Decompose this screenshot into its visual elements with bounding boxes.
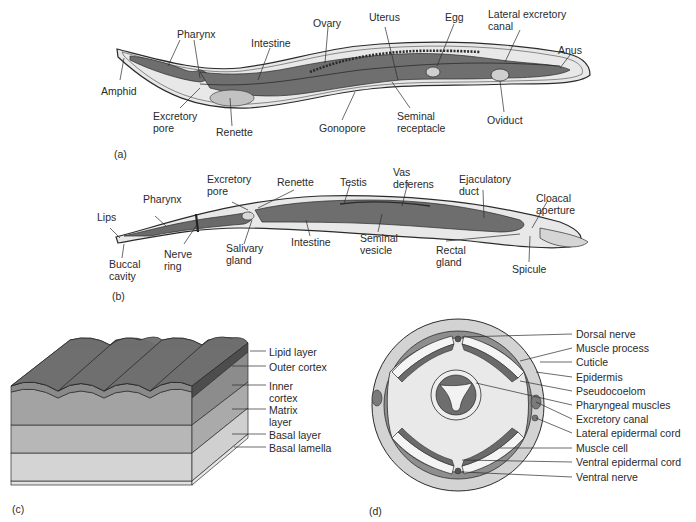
- label-lipid-layer: Lipid layer: [269, 346, 317, 358]
- label-lips: Lips: [97, 211, 116, 223]
- panel-tag-b: (b): [112, 290, 125, 302]
- label-inner-cortex: Inner cortex: [269, 380, 298, 404]
- label-seminal-receptacle: Seminal receptacle: [397, 110, 445, 134]
- label-salivary-gland: Salivary gland: [226, 242, 263, 266]
- label-pharynx-b: Pharynx: [143, 193, 182, 205]
- front-lamella: [11, 481, 192, 485]
- female-oviduct-egg: [491, 69, 509, 81]
- female-egg: [426, 67, 440, 77]
- female-renette: [210, 90, 254, 106]
- label-lateral-excretory-canal: Lateral excretory canal: [488, 8, 566, 32]
- label-ejaculatory-duct: Ejaculatory duct: [459, 173, 511, 197]
- label-muscle-cell: Muscle cell: [576, 442, 628, 454]
- cross-section-drawing: [372, 319, 572, 491]
- male-salivary-gland: [242, 212, 254, 220]
- label-ovary: Ovary: [313, 17, 341, 29]
- label-oviduct: Oviduct: [487, 114, 523, 126]
- label-dorsal-nerve: Dorsal nerve: [576, 328, 636, 340]
- label-uterus: Uterus: [369, 11, 400, 23]
- label-muscle-process: Muscle process: [576, 342, 649, 354]
- label-lateral-epidermal-cord: Lateral epidermal cord: [576, 427, 680, 439]
- label-seminal-vesicle: Seminal vesicle: [360, 232, 398, 256]
- ventral-nerve: [455, 468, 461, 474]
- label-nerve-ring: Nerve ring: [164, 248, 192, 272]
- label-renette-b: Renette: [277, 176, 314, 188]
- label-cuticle: Cuticle: [576, 356, 608, 368]
- label-egg: Egg: [445, 11, 464, 23]
- label-epidermis: Epidermis: [576, 371, 623, 383]
- label-intestine-b: Intestine: [291, 236, 331, 248]
- label-renette-a: Renette: [216, 126, 253, 138]
- label-pseudocoelom: Pseudocoelom: [576, 385, 645, 397]
- front-matrix-layer: [11, 425, 192, 453]
- male-pharynx: [124, 212, 252, 236]
- front-basal-layer: [11, 453, 192, 481]
- label-excretory-pore-b: Excretory pore: [207, 173, 251, 197]
- cuticle-block-drawing: [11, 337, 266, 485]
- label-pharyngeal-muscles: Pharyngeal muscles: [576, 399, 671, 411]
- label-vas-deferens: Vas deferens: [393, 166, 434, 190]
- panel-tag-d: (d): [369, 505, 382, 517]
- label-ventral-nerve: Ventral nerve: [576, 471, 638, 483]
- label-anus: Anus: [558, 44, 582, 56]
- label-spicule: Spicule: [512, 263, 546, 275]
- label-outer-cortex: Outer cortex: [269, 361, 327, 373]
- label-excretory-pore-a: Excretory pore: [153, 110, 197, 134]
- label-amphid: Amphid: [101, 85, 137, 97]
- nematode-anatomy-figure: Pharynx Intestine Ovary Uterus Egg Later…: [0, 0, 696, 522]
- label-buccal-cavity: Buccal cavity: [109, 258, 141, 282]
- lateral-cord-right: [532, 415, 538, 421]
- label-rectal-gland: Rectal gland: [436, 244, 466, 268]
- label-excretory-canal: Excretory canal: [576, 413, 648, 425]
- dorsal-nerve: [455, 336, 461, 342]
- label-basal-lamella: Basal lamella: [269, 442, 331, 454]
- label-ventral-epidermal-cord: Ventral epidermal cord: [576, 456, 681, 468]
- label-cloacal-aperture: Cloacal aperture: [536, 192, 575, 216]
- panel-tag-a: (a): [114, 148, 127, 160]
- label-gonopore: Gonopore: [319, 122, 366, 134]
- label-intestine-a: Intestine: [251, 37, 291, 49]
- label-testis: Testis: [340, 176, 367, 188]
- panel-tag-c: (c): [12, 503, 24, 515]
- lateral-cord-left: [372, 390, 382, 406]
- label-matrix-layer: Matrix layer: [269, 404, 298, 428]
- label-pharynx-a: Pharynx: [177, 28, 216, 40]
- label-basal-layer: Basal layer: [269, 429, 321, 441]
